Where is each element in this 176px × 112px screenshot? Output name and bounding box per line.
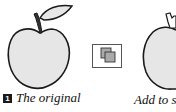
caption-original: 1 The original: [3, 90, 81, 106]
step-number-badge: 1: [3, 94, 12, 103]
apple-stem-result: [166, 13, 176, 28]
apple-body-result: [143, 27, 176, 89]
apple-body-original: [8, 29, 69, 88]
add-to-shape-area-button[interactable]: [92, 44, 122, 68]
caption-text-original: The original: [16, 90, 81, 106]
caption-result: Add to sh: [134, 92, 176, 108]
apple-leaf: [40, 6, 72, 21]
